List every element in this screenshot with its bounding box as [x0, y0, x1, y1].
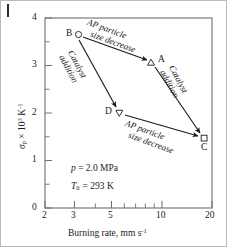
condition-pressure: p = 2.0 MPa: [71, 164, 118, 174]
condition-pressure-value: 2.0 MPa: [86, 163, 118, 173]
condition-temperature-equals: =: [83, 181, 88, 191]
condition-pressure-symbol: p: [71, 163, 76, 173]
data-point-b-marker: [75, 31, 81, 37]
condition-temperature-subscript: 0: [76, 184, 79, 191]
y-axis-sigma-symbol: σ: [17, 144, 27, 149]
condition-pressure-equals: =: [78, 163, 83, 173]
x-tick-label-10: 10: [156, 211, 166, 221]
y-axis-title: σp × 103 K-1: [17, 104, 28, 149]
y-tick-label-2: 2: [32, 108, 37, 118]
y-major-ticks: [45, 18, 52, 208]
data-point-a-marker: [148, 59, 155, 65]
x-tick-label-5: 5: [108, 211, 113, 221]
x-major-ticks: [45, 201, 212, 208]
y-tick-label-0: 0: [32, 203, 37, 213]
chart-figure: 4 3 2 1 0 2 3 5 10 20 Burning rate, mm s…: [0, 0, 227, 247]
data-point-label-c: C: [201, 143, 207, 153]
y-axis-sigma-subscript: p: [20, 141, 27, 144]
data-point-label-a: A: [158, 55, 165, 65]
y-axis-unit-exponent: -1: [16, 104, 23, 109]
data-point-label-d: D: [105, 107, 112, 117]
x-tick-label-2: 2: [42, 211, 47, 221]
x-axis-title: Burning rate, mm s-1: [68, 228, 147, 238]
x-tick-label-3: 3: [71, 211, 76, 221]
x-axis-title-exponent: -1: [141, 227, 146, 234]
data-point-c-marker: [201, 135, 207, 141]
x-tick-label-20: 20: [205, 211, 215, 221]
y-axis-times-ten: × 10: [17, 121, 27, 141]
y-tick-label-4: 4: [32, 13, 37, 23]
y-tick-label-3: 3: [32, 60, 37, 70]
x-minor-ticks: [95, 204, 154, 209]
condition-temperature-value: 293 K: [90, 181, 114, 191]
x-axis-title-text: Burning rate, mm s: [68, 228, 141, 238]
y-axis-unit: K: [17, 109, 27, 118]
y-tick-label-1: 1: [32, 155, 37, 165]
condition-temperature: T0= 293 K: [71, 182, 114, 192]
data-point-label-b: B: [66, 29, 72, 39]
y-axis-exponent: 3: [16, 118, 23, 121]
data-point-d-marker: [116, 110, 123, 116]
